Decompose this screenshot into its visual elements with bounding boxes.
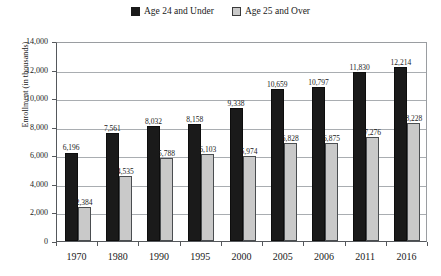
bar xyxy=(78,207,91,241)
bar-value-label: 4,535 xyxy=(110,168,140,176)
legend-label-series-2: Age 25 and Over xyxy=(245,6,310,16)
bar xyxy=(366,137,379,241)
bar xyxy=(147,126,160,241)
x-axis-tick xyxy=(345,242,346,246)
bar-value-label: 11,830 xyxy=(345,64,375,72)
plot-area: 6,1962,3847,5614,5358,0325,7888,1586,103… xyxy=(56,42,427,242)
bar-value-label: 6,196 xyxy=(56,144,86,152)
x-axis-tick xyxy=(262,242,263,246)
bar xyxy=(106,133,119,241)
dark-square-icon xyxy=(131,7,140,16)
y-axis-tick-label: 10,000 xyxy=(4,95,48,103)
bar xyxy=(230,108,243,241)
y-axis-tick-label: 0 xyxy=(4,238,48,246)
y-axis-tick-label: 6,000 xyxy=(4,152,48,160)
x-axis-tick xyxy=(303,242,304,246)
bar-value-label: 6,828 xyxy=(275,135,305,143)
y-axis-tick-label: 12,000 xyxy=(4,67,48,75)
y-axis-tick-label: 14,000 xyxy=(4,38,48,46)
bar-value-label: 10,797 xyxy=(303,79,333,87)
x-axis-tick-label: 1970 xyxy=(56,251,97,262)
x-axis-tick-label: 2011 xyxy=(345,251,386,262)
x-axis-tick-label: 2016 xyxy=(386,251,427,262)
chart-legend: Age 24 and Under Age 25 and Over xyxy=(0,6,441,16)
bar-value-label: 7,276 xyxy=(358,129,388,137)
bar-value-label: 5,788 xyxy=(152,150,182,158)
bar-value-label: 10,659 xyxy=(262,81,292,89)
bar xyxy=(188,124,201,241)
bar xyxy=(243,156,256,241)
bar xyxy=(353,72,366,241)
x-axis-tick xyxy=(97,242,98,246)
bar xyxy=(160,158,173,241)
bar-chart: Age 24 and Under Age 25 and Over Enrollm… xyxy=(0,0,441,276)
bar-value-label: 2,384 xyxy=(69,199,99,207)
bar-value-label: 12,214 xyxy=(386,59,416,67)
bar-value-label: 8,158 xyxy=(180,116,210,124)
x-axis-tick-label: 2006 xyxy=(303,251,344,262)
x-axis-tick xyxy=(427,242,428,246)
x-axis-tick xyxy=(56,242,57,246)
x-axis-tick-label: 2005 xyxy=(262,251,303,262)
legend-item-age-25-and-over: Age 25 and Over xyxy=(232,6,310,16)
bar-value-label: 6,103 xyxy=(193,146,223,154)
x-axis-tick xyxy=(138,242,139,246)
x-axis-tick-label: 1995 xyxy=(180,251,221,262)
bar-value-label: 8,228 xyxy=(399,115,429,123)
bar xyxy=(394,67,407,241)
y-axis-title: Enrollment (in thousands) xyxy=(21,5,30,165)
bar xyxy=(119,176,132,241)
bar-value-label: 9,338 xyxy=(221,100,251,108)
bar xyxy=(312,87,325,241)
y-axis-tick-label: 2,000 xyxy=(4,209,48,217)
bar-value-label: 6,875 xyxy=(316,135,346,143)
bar xyxy=(201,154,214,241)
y-axis-tick-label: 8,000 xyxy=(4,124,48,132)
x-axis-tick xyxy=(221,242,222,246)
bar xyxy=(271,89,284,241)
bar xyxy=(407,123,420,241)
x-axis-tick-label: 2000 xyxy=(221,251,262,262)
light-square-icon xyxy=(232,7,241,16)
legend-item-age-24-and-under: Age 24 and Under xyxy=(131,6,214,16)
x-axis-tick-label: 1990 xyxy=(138,251,179,262)
bar-value-label: 5,974 xyxy=(234,148,264,156)
bar xyxy=(65,153,78,242)
y-axis-tick-label: 4,000 xyxy=(4,181,48,189)
bar xyxy=(284,143,297,241)
legend-label-series-1: Age 24 and Under xyxy=(144,6,214,16)
x-axis-tick-label: 1980 xyxy=(97,251,138,262)
bar-series-container: 6,1962,3847,5614,5358,0325,7888,1586,103… xyxy=(57,43,426,241)
bar xyxy=(325,143,338,241)
x-axis-tick xyxy=(180,242,181,246)
x-axis-tick xyxy=(386,242,387,246)
bar-value-label: 7,561 xyxy=(97,125,127,133)
bar-value-label: 8,032 xyxy=(139,118,169,126)
